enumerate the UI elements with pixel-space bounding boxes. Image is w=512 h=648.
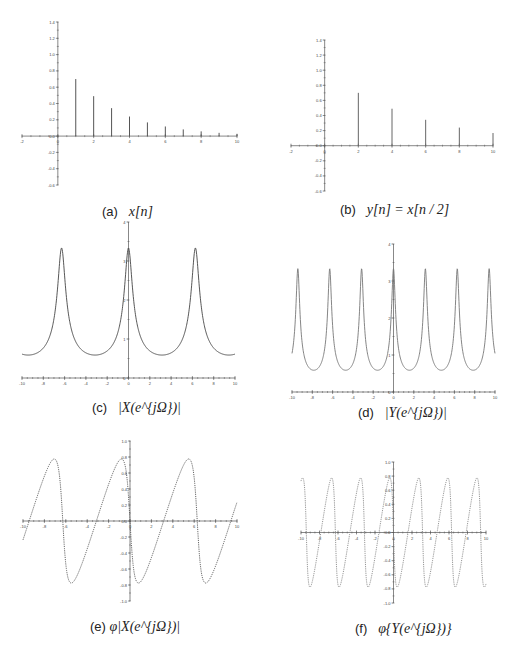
x-tick-label: 2: [413, 395, 416, 400]
y-tick-label: -0.8: [384, 586, 392, 591]
y-tick-label: -1.0: [384, 601, 392, 606]
x-tick-label: 2: [93, 139, 96, 144]
plot-d-magnitude-y: -10-8-6-4-2024681001234: [289, 242, 498, 401]
y-tick-label: -0.6: [384, 572, 392, 577]
y-tick-label: 0.4: [121, 487, 127, 492]
y-tick-label: 3: [123, 259, 126, 264]
x-tick-label: 4: [429, 536, 432, 541]
y-tick-label: 0.4: [316, 113, 322, 118]
x-tick-label: 8: [458, 149, 461, 154]
x-tick-label: 6: [453, 395, 456, 400]
caption-b-label: (b): [340, 202, 356, 217]
x-tick-label: 0: [392, 395, 395, 400]
x-tick-label: 2: [149, 381, 152, 386]
y-tick-label: 1.2: [49, 36, 55, 41]
y-tick-label: 1.4: [49, 20, 55, 25]
y-tick-label: 0.4: [49, 101, 55, 106]
x-tick-label: -6: [63, 381, 67, 386]
x-tick-label: -10: [19, 381, 26, 386]
y-tick-label: 1.0: [385, 460, 391, 465]
y-tick-label: 0.8: [385, 474, 391, 479]
caption-f-label: (f): [355, 621, 367, 636]
x-tick-label: 10: [235, 139, 240, 144]
x-tick-label: -8: [311, 395, 315, 400]
y-tick-label: 0.0: [49, 134, 55, 139]
caption-d-label: (d): [358, 405, 374, 420]
y-tick-label: -0.4: [315, 173, 323, 178]
x-tick-label: 8: [474, 395, 477, 400]
caption-a-label: (a): [102, 204, 118, 219]
y-tick-label: -0.6: [120, 567, 128, 572]
y-tick-label: 0.8: [316, 83, 322, 88]
x-tick-label: -4: [351, 395, 355, 400]
x-tick-label: 10: [484, 536, 489, 541]
plot-b-stem-yn: -20246810-0.6-0.4-0.20.00.20.40.60.81.01…: [289, 38, 496, 194]
caption-e: (e) φ|X(e^{jΩ})|: [90, 619, 180, 635]
y-tick-label: 4: [123, 220, 126, 225]
caption-c-label: (c): [92, 400, 107, 415]
caption-d-math: |Y(e^{jΩ})|: [385, 405, 447, 420]
y-tick-label: 0.2: [316, 128, 322, 133]
y-tick-label: 1.0: [49, 52, 55, 57]
y-tick-label: 1: [388, 353, 391, 358]
plot-e-phase-x: -10-8-6-4-20246810-1.0-0.8-0.6-0.4-0.20.…: [20, 439, 240, 604]
x-tick-label: -10: [298, 536, 305, 541]
y-tick-label: -0.2: [48, 150, 56, 155]
x-tick-label: -10: [289, 395, 296, 400]
x-tick-label: 8: [466, 536, 469, 541]
y-tick-label: -0.6: [48, 183, 56, 188]
x-tick-label: 6: [164, 139, 167, 144]
y-tick-label: 0.0: [121, 519, 127, 524]
x-tick-label: 0: [324, 149, 327, 154]
x-tick-label: 6: [448, 536, 451, 541]
y-tick-label: -0.2: [384, 544, 392, 549]
x-tick-label: 8: [214, 524, 217, 529]
x-tick-label: -6: [64, 524, 68, 529]
y-tick-label: -0.8: [120, 583, 128, 588]
caption-a: (a) x[n]: [102, 204, 153, 220]
y-tick-label: 1.0: [121, 439, 127, 444]
x-tick-label: 4: [128, 139, 131, 144]
x-tick-label: 10: [491, 149, 496, 154]
caption-b-math: y[n] = x[n / 2]: [367, 202, 450, 217]
x-tick-label: 10: [235, 524, 240, 529]
x-tick-label: 2: [150, 524, 153, 529]
x-tick-label: 10: [233, 381, 238, 386]
x-tick-label: -2: [289, 149, 293, 154]
y-tick-label: 1.2: [316, 53, 322, 58]
y-tick-label: 0.2: [49, 117, 55, 122]
x-tick-label: 4: [433, 395, 436, 400]
caption-f-math: φ{Y(e^{jΩ})}: [378, 621, 451, 636]
y-tick-label: -0.2: [120, 535, 128, 540]
y-tick-label: -0.2: [315, 158, 323, 163]
y-tick-label: 1.0: [316, 68, 322, 73]
x-tick-label: -2: [371, 395, 375, 400]
y-tick-label: 0.8: [49, 68, 55, 73]
x-tick-label: -8: [43, 524, 47, 529]
x-tick-label: 6: [193, 524, 196, 529]
caption-d: (d) |Y(e^{jΩ})|: [358, 405, 447, 421]
x-tick-label: -2: [105, 381, 109, 386]
x-tick-label: 4: [391, 149, 394, 154]
y-tick-label: 0.6: [316, 98, 322, 103]
x-tick-label: -6: [336, 536, 340, 541]
x-tick-label: 0: [57, 139, 60, 144]
caption-c-math: |X(e^{jΩ})|: [118, 400, 181, 415]
x-tick-label: -4: [84, 381, 88, 386]
x-tick-label: 2: [411, 536, 414, 541]
y-tick-label: 0.6: [49, 85, 55, 90]
x-tick-label: 0: [127, 381, 130, 386]
y-tick-label: -0.4: [120, 551, 128, 556]
caption-e-math: φ|X(e^{jΩ})|: [110, 619, 181, 634]
x-tick-label: 6: [191, 381, 194, 386]
x-tick-label: 8: [200, 139, 203, 144]
x-tick-label: 4: [170, 381, 173, 386]
caption-a-math: x[n]: [129, 204, 153, 219]
y-tick-label: 0.0: [385, 530, 391, 535]
caption-e-label: (e): [90, 619, 106, 634]
x-tick-label: -2: [107, 524, 111, 529]
x-tick-label: 10: [493, 395, 498, 400]
y-tick-label: 0.6: [385, 488, 391, 493]
x-tick-label: 2: [357, 149, 360, 154]
x-tick-label: -4: [85, 524, 89, 529]
